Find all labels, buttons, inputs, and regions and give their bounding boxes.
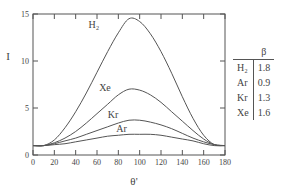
series-label: Kr [108, 109, 119, 120]
series-line-xe [33, 89, 225, 146]
gas-name: Xe [233, 105, 253, 120]
series-label: H₂ [88, 19, 99, 30]
table-row: Xe1.6 [233, 105, 274, 120]
series-line-h2 [33, 18, 225, 146]
y-tick-label: 5 [25, 104, 29, 113]
y-axis-label: I [6, 50, 10, 62]
gas-name: H₂ [233, 60, 253, 76]
beta-value: 1.3 [253, 90, 274, 105]
table-row: H₂1.8 [233, 60, 274, 76]
x-tick-label: 0 [31, 158, 35, 167]
x-tick-label: 40 [72, 158, 80, 167]
beta-value: 1.6 [253, 105, 274, 120]
x-tick-label: 140 [176, 158, 188, 167]
beta-value: 1.8 [253, 60, 274, 76]
x-tick-label: 80 [114, 158, 122, 167]
x-tick-label: 160 [198, 158, 210, 167]
beta-value: 0.9 [253, 75, 274, 90]
x-tick-label: 20 [50, 158, 58, 167]
gas-name: Kr [233, 90, 253, 105]
gas-name: Ar [233, 75, 253, 90]
x-tick-label: 120 [155, 158, 167, 167]
y-tick-label: 15 [21, 10, 29, 19]
beta-header: β [253, 44, 274, 60]
series-label: Ar [116, 123, 127, 134]
x-tick-label: 60 [93, 158, 101, 167]
series-label: Xe [99, 82, 111, 93]
beta-table: β H₂1.8 Ar0.9 Kr1.3 Xe1.6 [233, 44, 274, 120]
table-row: Kr1.3 [233, 90, 274, 105]
table-row: Ar0.9 [233, 75, 274, 90]
y-tick-label: 10 [21, 57, 29, 66]
y-tick-label: 0 [25, 151, 29, 160]
x-tick-label: 100 [134, 158, 146, 167]
x-tick-label: 180 [219, 158, 231, 167]
x-axis-label: θ' [130, 175, 137, 187]
